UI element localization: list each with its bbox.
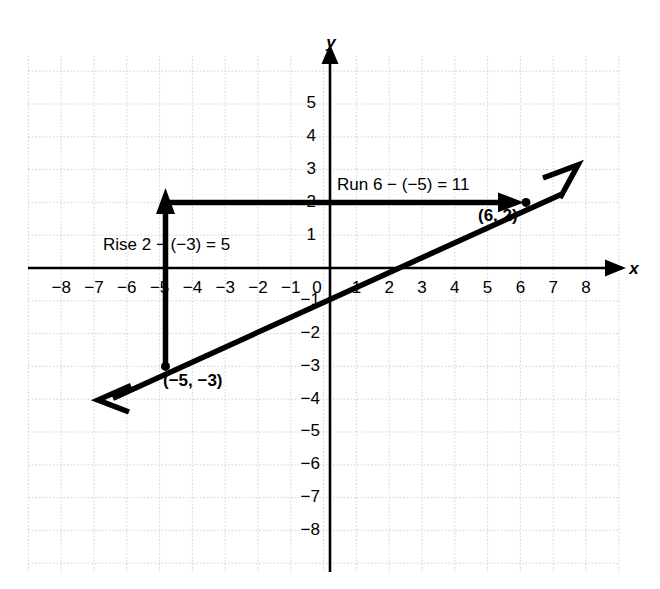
y-tick-label: 1 xyxy=(307,225,316,244)
coordinate-plane-figure: x y −8 −7 −6 −5 −4 −3 −2 −1 1 2 3 4 5 6 … xyxy=(0,0,660,589)
x-tick-label: −6 xyxy=(117,278,136,297)
y-tick-label: −2 xyxy=(301,323,320,342)
x-tick-label: −8 xyxy=(52,278,71,297)
y-tick-label: −5 xyxy=(301,421,320,440)
y-axis-label: y xyxy=(325,33,337,52)
x-tick-label: 8 xyxy=(581,278,590,297)
y-tick-label: 4 xyxy=(307,126,316,145)
y-tick-label: −4 xyxy=(301,389,320,408)
x-axis-label: x xyxy=(628,259,640,278)
y-tick-label: 3 xyxy=(307,159,316,178)
point-a-label: (−5, −3) xyxy=(163,371,223,390)
x-tick-label: −2 xyxy=(248,278,267,297)
y-tick-label: −8 xyxy=(301,520,320,539)
x-tick-label: −7 xyxy=(84,278,103,297)
rise-label: Rise 2 − (−3) = 5 xyxy=(103,235,230,254)
x-tick-label: −4 xyxy=(183,278,202,297)
x-tick-label: 2 xyxy=(384,278,393,297)
point-b-label: (6, 2) xyxy=(478,206,518,225)
x-tick-label: 4 xyxy=(450,278,459,297)
y-tick-label: −6 xyxy=(301,454,320,473)
point-marker-a xyxy=(161,362,170,371)
graph-canvas: x y −8 −7 −6 −5 −4 −3 −2 −1 1 2 3 4 5 6 … xyxy=(0,0,660,589)
run-label: Run 6 − (−5) = 11 xyxy=(337,175,469,194)
x-tick-label: 5 xyxy=(483,278,492,297)
x-tick-label: 6 xyxy=(516,278,525,297)
x-tick-label: 3 xyxy=(417,278,426,297)
point-marker-b xyxy=(522,198,531,207)
x-tick-label: 7 xyxy=(548,278,557,297)
x-tick-label: −3 xyxy=(216,278,235,297)
x-tick-label: −1 xyxy=(281,278,300,297)
y-tick-label: −7 xyxy=(301,487,320,506)
y-tick-label: −3 xyxy=(301,356,320,375)
y-tick-label: 5 xyxy=(307,93,316,112)
